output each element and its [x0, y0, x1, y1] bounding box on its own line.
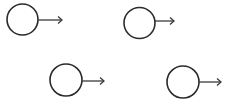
object-1-group [7, 4, 62, 35]
diagram-canvas [0, 0, 225, 107]
object-3-group [50, 64, 104, 96]
object-1-circle [7, 4, 38, 35]
object-3-circle [50, 64, 82, 96]
object-4-group [167, 66, 221, 98]
object-4-circle [167, 66, 199, 98]
object-2-group [124, 8, 174, 39]
object-2-circle [124, 8, 155, 39]
